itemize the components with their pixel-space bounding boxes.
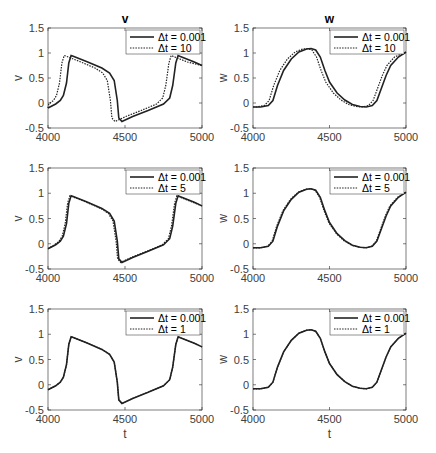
panel-title: w — [324, 12, 335, 26]
x-tick-label: 4500 — [317, 131, 341, 143]
x-axis-label: t — [123, 427, 127, 441]
chart-panel-row1-left: -0.500.511.5400045005000vvΔt = 0.001Δt =… — [11, 12, 214, 143]
legend: Δt = 0.001Δt = 5 — [330, 170, 410, 194]
y-tick-label: 0.5 — [234, 354, 249, 366]
figure: -0.500.511.5400045005000vvΔt = 0.001Δt =… — [0, 0, 436, 453]
y-axis-label: w — [216, 73, 230, 83]
x-tick-label: 5000 — [190, 272, 214, 284]
y-tick-label: 0.5 — [29, 72, 44, 84]
x-tick-label: 4500 — [317, 272, 341, 284]
y-tick-label: 1.5 — [234, 22, 249, 34]
legend: Δt = 0.001Δt = 1 — [330, 311, 410, 335]
y-tick-label: 1 — [243, 187, 249, 199]
legend-label: Δt = 10 — [362, 42, 396, 54]
y-tick-label: 0.5 — [234, 213, 249, 225]
y-axis-label: w — [216, 214, 230, 224]
panel-title: v — [122, 12, 129, 26]
legend: Δt = 0.001Δt = 10 — [330, 30, 410, 54]
y-tick-label: 0 — [38, 238, 44, 250]
legend: Δt = 0.001Δt = 1 — [126, 311, 206, 335]
x-tick-label: 4000 — [36, 272, 60, 284]
chart-panel-row3-right: -0.500.511.5400045005000wtΔt = 0.001Δt =… — [216, 303, 418, 441]
legend: Δt = 0.001Δt = 5 — [126, 170, 206, 194]
y-axis-label: v — [11, 75, 25, 81]
legend-label: Δt = 1 — [362, 323, 390, 335]
chart-panel-row3-left: -0.500.511.5400045005000vtΔt = 0.001Δt =… — [11, 303, 214, 441]
legend-label: Δt = 5 — [158, 182, 186, 194]
x-tick-label: 5000 — [190, 413, 214, 425]
y-tick-label: 0.5 — [234, 72, 249, 84]
y-tick-label: 1 — [243, 328, 249, 340]
x-tick-label: 4500 — [113, 413, 137, 425]
chart-panel-row1-right: -0.500.511.5400045005000wwΔt = 0.001Δt =… — [216, 12, 418, 143]
y-tick-label: 0 — [38, 379, 44, 391]
y-axis-label: v — [11, 357, 25, 363]
y-tick-label: 1 — [38, 187, 44, 199]
x-tick-label: 4500 — [113, 131, 137, 143]
y-tick-label: 1 — [38, 328, 44, 340]
chart-panel-row2-left: -0.500.511.5400045005000vΔt = 0.001Δt = … — [11, 162, 214, 284]
x-tick-label: 5000 — [394, 413, 418, 425]
y-tick-label: 0 — [38, 97, 44, 109]
legend-label: Δt = 5 — [362, 182, 390, 194]
y-tick-label: 1.5 — [29, 22, 44, 34]
y-tick-label: 1 — [38, 47, 44, 59]
legend-label: Δt = 1 — [158, 323, 186, 335]
y-tick-label: 1.5 — [29, 303, 44, 315]
y-tick-label: 0 — [243, 97, 249, 109]
x-tick-label: 4000 — [241, 131, 265, 143]
x-tick-label: 4000 — [36, 131, 60, 143]
x-tick-label: 4500 — [317, 413, 341, 425]
y-tick-label: 0 — [243, 238, 249, 250]
y-tick-label: 1.5 — [234, 162, 249, 174]
x-tick-label: 5000 — [190, 131, 214, 143]
x-tick-label: 5000 — [394, 131, 418, 143]
x-tick-label: 5000 — [394, 272, 418, 284]
x-tick-label: 4000 — [36, 413, 60, 425]
chart-panel-row2-right: -0.500.511.5400045005000wΔt = 0.001Δt = … — [216, 162, 418, 284]
y-axis-label: v — [11, 216, 25, 222]
y-tick-label: 0.5 — [29, 354, 44, 366]
y-tick-label: 1.5 — [29, 162, 44, 174]
y-tick-label: 1 — [243, 47, 249, 59]
x-axis-label: t — [328, 427, 332, 441]
y-tick-label: 0.5 — [29, 213, 44, 225]
legend-label: Δt = 10 — [158, 42, 192, 54]
x-tick-label: 4500 — [113, 272, 137, 284]
x-tick-label: 4000 — [241, 413, 265, 425]
y-tick-label: 0 — [243, 379, 249, 391]
x-tick-label: 4000 — [241, 272, 265, 284]
y-tick-label: 1.5 — [234, 303, 249, 315]
y-axis-label: w — [216, 355, 230, 365]
legend: Δt = 0.001Δt = 10 — [126, 30, 206, 54]
